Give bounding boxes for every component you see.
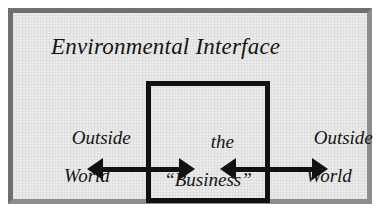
diagram-canvas: Environmental Interface Outside World Ou…: [0, 0, 388, 219]
right-interface-arrow: [220, 156, 328, 182]
outside-world-left-line1: Outside: [72, 127, 131, 148]
arrow-shaft: [231, 167, 317, 172]
environmental-interface-frame: Environmental Interface Outside World Ou…: [8, 8, 372, 204]
arrowhead-right-icon: [312, 158, 328, 180]
arrow-shaft: [98, 167, 184, 172]
diagram-title: Environmental Interface: [51, 35, 280, 58]
outside-world-right-line1: Outside: [314, 127, 373, 148]
business-label-line1: the: [211, 131, 234, 152]
arrowhead-right-icon: [179, 158, 195, 180]
left-interface-arrow: [87, 156, 195, 182]
